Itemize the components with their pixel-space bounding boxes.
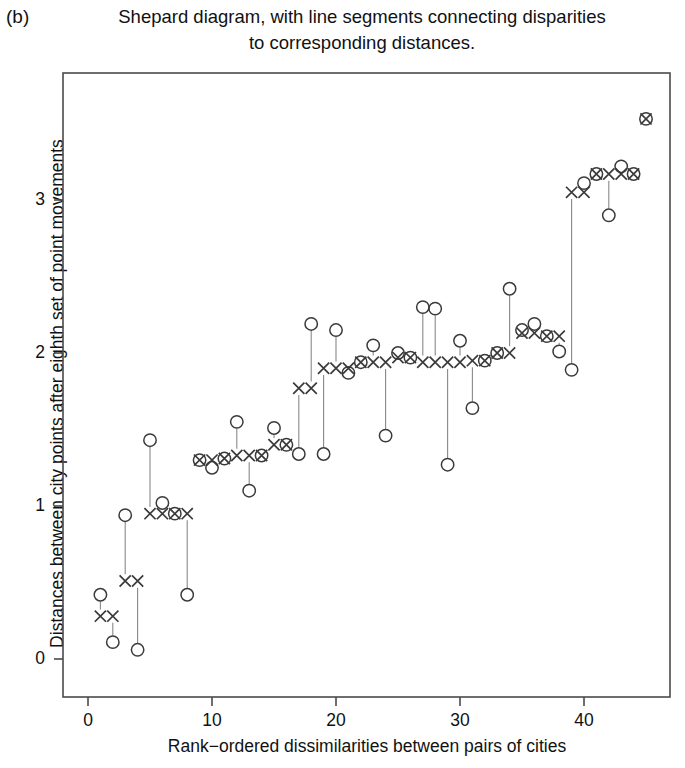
- data-points: [94, 113, 652, 656]
- disparity-x-marker: [479, 355, 490, 366]
- distance-point-marker: [156, 497, 168, 509]
- distance-point-marker: [181, 589, 193, 601]
- y-tick-label: 0: [17, 648, 45, 669]
- disparity-x-marker: [417, 357, 428, 368]
- distance-point-marker: [94, 589, 106, 601]
- disparity-x-marker: [306, 383, 317, 394]
- y-tick-label: 3: [17, 189, 45, 210]
- axis-ticks: [54, 200, 584, 706]
- y-tick-label: 2: [17, 342, 45, 363]
- disparity-x-marker: [219, 453, 230, 464]
- disparity-x-marker: [380, 357, 391, 368]
- disparity-x-marker: [578, 187, 589, 198]
- distance-point-marker: [565, 364, 577, 376]
- distance-point-marker: [417, 301, 429, 313]
- disparity-x-marker: [603, 168, 614, 179]
- x-tick-label: 20: [311, 710, 361, 731]
- y-tick-label: 1: [17, 495, 45, 516]
- distance-point-marker: [305, 318, 317, 330]
- disparity-x-marker: [516, 328, 527, 339]
- disparity-x-marker: [120, 575, 131, 586]
- distance-point-marker: [293, 448, 305, 460]
- disparity-x-marker: [628, 168, 639, 179]
- scatter-plot-canvas: [0, 0, 685, 768]
- distance-point-marker: [503, 283, 515, 295]
- distance-point-marker: [243, 485, 255, 497]
- disparity-x-marker: [144, 508, 155, 519]
- disparity-x-marker: [368, 357, 379, 368]
- disparity-x-marker: [318, 363, 329, 374]
- disparity-x-marker: [231, 450, 242, 461]
- disparity-x-marker: [206, 455, 217, 466]
- disparity-x-marker: [554, 331, 565, 342]
- x-tick-label: 0: [63, 710, 113, 731]
- distance-point-marker: [144, 434, 156, 446]
- distance-point-marker: [441, 458, 453, 470]
- distance-point-marker: [107, 636, 119, 648]
- disparity-x-marker: [330, 363, 341, 374]
- distance-point-marker: [119, 509, 131, 521]
- distance-point-marker: [367, 339, 379, 351]
- disparity-x-marker: [541, 331, 552, 342]
- distance-point-marker: [454, 335, 466, 347]
- disparity-x-marker: [529, 328, 540, 339]
- disparity-x-marker: [566, 187, 577, 198]
- distance-point-marker: [268, 422, 280, 434]
- distance-point-marker: [553, 345, 565, 357]
- disparity-x-marker: [244, 450, 255, 461]
- disparity-x-marker: [132, 575, 143, 586]
- figure-panel: (b) Shepard diagram, with line segments …: [0, 0, 685, 768]
- distance-point-marker: [131, 644, 143, 656]
- disparity-x-marker: [442, 357, 453, 368]
- disparity-x-marker: [95, 611, 106, 622]
- disparity-x-marker: [281, 439, 292, 450]
- distance-point-marker: [231, 416, 243, 428]
- distance-point-marker: [317, 448, 329, 460]
- x-tick-label: 30: [435, 710, 485, 731]
- disparity-x-marker: [454, 357, 465, 368]
- disparity-x-marker: [492, 347, 503, 358]
- x-tick-label: 10: [187, 710, 237, 731]
- x-tick-label: 40: [559, 710, 609, 731]
- distance-point-marker: [516, 324, 528, 336]
- disparity-x-marker: [182, 508, 193, 519]
- disparity-x-marker: [293, 383, 304, 394]
- disparity-x-marker: [616, 168, 627, 179]
- disparity-x-marker: [430, 357, 441, 368]
- connector-segments: [100, 181, 608, 643]
- distance-point-marker: [429, 302, 441, 314]
- circled-x-marker: [640, 113, 651, 124]
- plot-frame: [63, 73, 670, 697]
- disparity-x-marker: [591, 168, 602, 179]
- disparity-x-marker: [355, 357, 366, 368]
- disparity-x-marker: [194, 455, 205, 466]
- disparity-x-marker: [405, 352, 416, 363]
- distance-point-marker: [379, 429, 391, 441]
- disparity-x-marker: [504, 347, 515, 358]
- distance-point-marker: [466, 402, 478, 414]
- disparity-x-marker: [169, 508, 180, 519]
- disparity-x-marker: [107, 611, 118, 622]
- disparity-x-marker: [467, 355, 478, 366]
- disparity-x-marker: [256, 450, 267, 461]
- distance-point-marker: [330, 324, 342, 336]
- disparity-x-marker: [268, 439, 279, 450]
- distance-point-marker: [603, 209, 615, 221]
